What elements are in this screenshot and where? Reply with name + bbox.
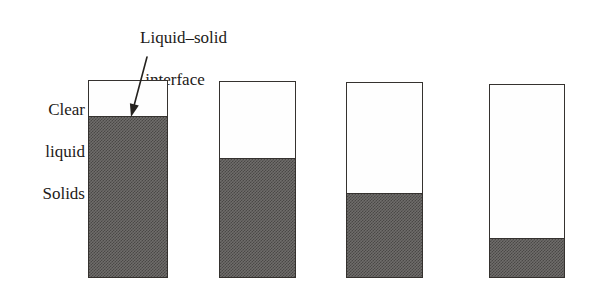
clear-liquid-label-line2: liquid	[0, 141, 85, 162]
solids-zone-2	[220, 158, 295, 277]
interface-label-line1: Liquid–solid	[140, 28, 227, 47]
sedimentation-figure: Liquid–solid interface Clear liquid Soli…	[0, 0, 595, 294]
cylinder-1	[88, 80, 168, 278]
solids-zone-1	[89, 116, 167, 277]
solids-zone-3	[347, 193, 422, 277]
solids-zone-4	[490, 238, 564, 277]
solids-label: Solids	[0, 183, 85, 204]
cylinder-4	[489, 84, 565, 278]
clear-liquid-label-line1: Clear	[48, 100, 85, 119]
cylinder-2	[219, 81, 296, 278]
cylinder-3	[346, 82, 423, 278]
